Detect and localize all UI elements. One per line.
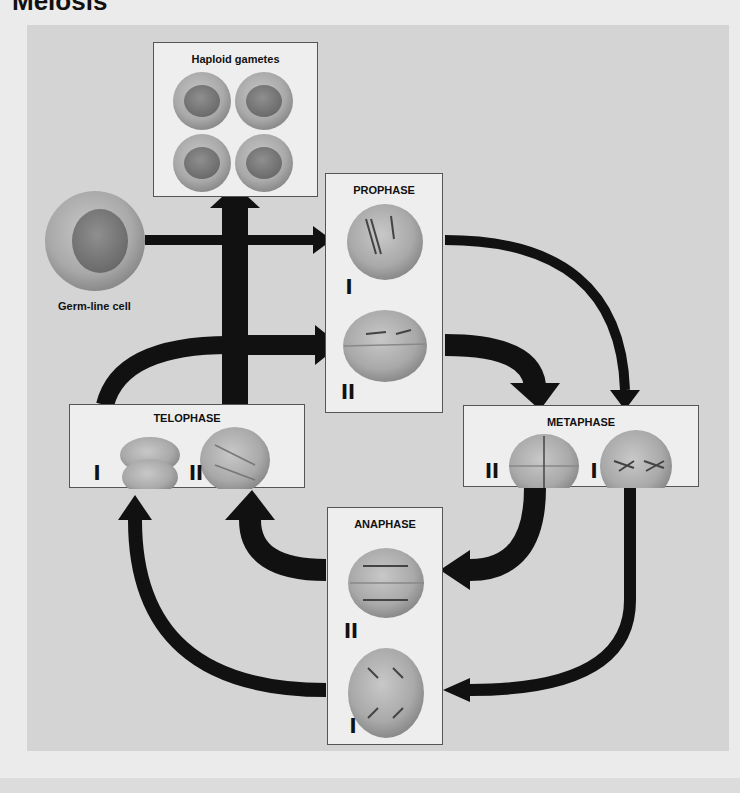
metaphase-stage-ii: II <box>485 458 499 484</box>
telophase-stage-i: I <box>94 460 101 486</box>
prophase-stage-i: I <box>346 274 353 300</box>
prophase-cells <box>326 174 444 414</box>
gamete-cells <box>154 43 319 198</box>
prophase-box: PROPHASE I II <box>325 173 443 413</box>
haploid-gametes-box: Haploid gametes <box>153 42 318 197</box>
telophase-stage-ii: II <box>189 460 203 486</box>
prophase-stage-ii: II <box>341 379 355 405</box>
germ-line-label: Germ-line cell <box>58 300 131 312</box>
metaphase-cells <box>464 406 700 488</box>
anaphase-stage-i: I <box>350 713 357 739</box>
germ-line-cell <box>40 186 150 296</box>
metaphase-box: METAPHASE II I <box>463 405 699 487</box>
anaphase-box: ANAPHASE II I <box>327 507 443 745</box>
metaphase-stage-i: I <box>591 458 598 484</box>
telophase-box: TELOPHASE I II <box>69 404 305 488</box>
telophase-cells <box>70 405 306 489</box>
anaphase-stage-ii: II <box>344 618 358 644</box>
